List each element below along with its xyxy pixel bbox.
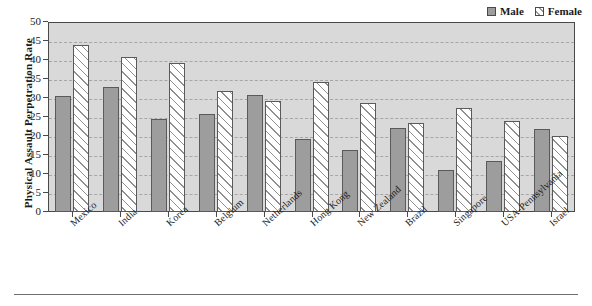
bar-group — [103, 22, 137, 212]
y-tick-label: 35 — [30, 71, 41, 86]
chart-legend: Male Female — [487, 5, 582, 17]
y-tick-label: 40 — [30, 52, 41, 67]
y-tick-label: 20 — [30, 128, 41, 143]
bar-male-korea[interactable] — [151, 119, 167, 212]
bar-male-mexico[interactable] — [55, 96, 71, 212]
bar-female-hong-kong[interactable] — [313, 82, 329, 212]
bar-group — [247, 22, 281, 212]
bar-male-singapore[interactable] — [438, 170, 454, 212]
y-tick-label: 50 — [30, 14, 41, 29]
y-tick-label: 5 — [36, 185, 42, 200]
bar-series-container — [48, 22, 575, 212]
bar-group — [486, 22, 520, 212]
y-tick-label: 30 — [30, 90, 41, 105]
bar-female-usa-pennsylvania[interactable] — [504, 121, 520, 212]
y-tick-label: 45 — [30, 33, 41, 48]
legend-label-female: Female — [548, 5, 582, 17]
bottom-divider — [14, 294, 578, 295]
bar-group — [55, 22, 89, 212]
y-tick-label: 25 — [30, 109, 41, 124]
y-axis-ticks: 05101520253035404550 — [0, 22, 48, 212]
legend-item-female[interactable]: Female — [535, 5, 582, 17]
bar-group — [151, 22, 185, 212]
bar-group — [438, 22, 472, 212]
x-axis-labels: MexicoIndiaKoreaBelgiumNetherlandsHong K… — [48, 212, 575, 292]
chart-figure: Physical Assault Perpetration Rate 05101… — [0, 0, 592, 306]
bar-group — [342, 22, 376, 212]
y-tick-label: 15 — [30, 147, 41, 162]
female-swatch-icon — [535, 7, 544, 16]
bar-group — [295, 22, 329, 212]
legend-item-male[interactable]: Male — [487, 5, 524, 17]
bar-male-new-zealand[interactable] — [342, 150, 358, 212]
bar-group — [199, 22, 233, 212]
bar-female-korea[interactable] — [169, 63, 185, 212]
bar-female-new-zealand[interactable] — [360, 103, 376, 212]
bar-female-belgium[interactable] — [217, 91, 233, 212]
bar-female-brazil[interactable] — [408, 123, 424, 212]
y-tick-label: 0 — [36, 204, 42, 219]
bar-female-netherlands[interactable] — [265, 101, 281, 212]
bar-female-india[interactable] — [121, 57, 137, 212]
male-swatch-icon — [487, 7, 496, 16]
bar-female-singapore[interactable] — [456, 108, 472, 212]
y-tick-label: 10 — [30, 166, 41, 181]
bar-female-mexico[interactable] — [73, 45, 89, 212]
bar-male-usa-pennsylvania[interactable] — [486, 161, 502, 212]
legend-label-male: Male — [500, 5, 524, 17]
bar-male-netherlands[interactable] — [247, 95, 263, 212]
bar-male-india[interactable] — [103, 87, 119, 212]
bar-male-belgium[interactable] — [199, 114, 215, 212]
